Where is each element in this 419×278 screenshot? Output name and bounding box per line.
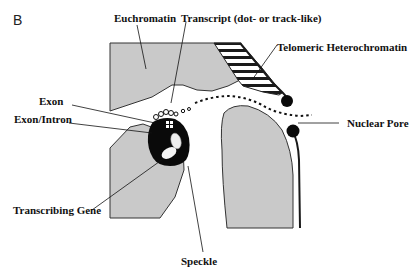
label-exon-intron: Exon/Intron <box>14 114 72 125</box>
nuclear-envelope-lower <box>293 133 300 228</box>
transcript-circles <box>154 108 191 120</box>
label-exon: Exon <box>39 96 63 107</box>
label-telomeric-heterochromatin: Telomeric Heterochromatin <box>277 42 407 53</box>
chromatin-region-lower-right <box>221 106 293 228</box>
panel-label: B <box>13 13 22 27</box>
nuclear-pore-upper <box>281 95 293 107</box>
label-euchromatin: Euchromatin <box>114 13 176 24</box>
label-transcript: Transcript (dot- or track-like) <box>181 13 321 24</box>
nuclear-organization-diagram: B Euchromatin Transcript (dot- or track-… <box>0 0 419 278</box>
label-speckle: Speckle <box>181 256 217 267</box>
label-transcribing-gene: Transcribing Gene <box>13 205 101 216</box>
label-nuclear-pore: Nuclear Pore <box>347 118 409 129</box>
nuclear-pore-lower <box>287 125 300 138</box>
